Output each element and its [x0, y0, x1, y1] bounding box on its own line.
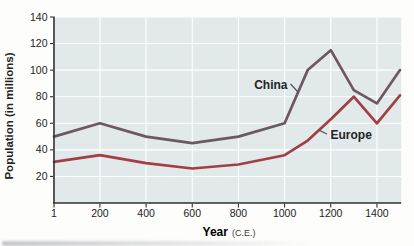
x-axis-title-main: Year: [203, 225, 229, 239]
x-tick-label: 400: [137, 207, 155, 219]
plot-area: [55, 17, 401, 203]
series-label-china: China: [254, 78, 288, 92]
x-tick-label: 800: [230, 207, 248, 219]
y-tick-label: 40: [36, 143, 48, 155]
y-axis-title: Population (in millions): [3, 52, 15, 179]
y-tick-label: 20: [36, 170, 48, 182]
x-tick-label: 200: [91, 207, 109, 219]
population-chart-figure: 1200400600800100012001400204060801001201…: [0, 0, 414, 246]
y-tick-label: 100: [30, 64, 48, 76]
y-tick-label: 140: [30, 11, 48, 23]
chart-canvas: 1200400600800100012001400204060801001201…: [0, 0, 414, 246]
x-axis-title: Year(C.E.): [203, 225, 256, 239]
series-label-europe: Europe: [331, 128, 373, 142]
x-tick-label: 1400: [365, 207, 389, 219]
y-tick-label: 60: [36, 117, 48, 129]
x-tick-label: 600: [183, 207, 201, 219]
x-tick-label: 1: [51, 207, 57, 219]
x-tick-label: 1200: [319, 207, 343, 219]
y-tick-label: 120: [30, 37, 48, 49]
cropped-caption-remnant: [2, 241, 312, 246]
x-tick-label: 1000: [273, 207, 297, 219]
y-tick-label: 80: [36, 90, 48, 102]
x-axis-title-suffix: (C.E.): [232, 228, 256, 238]
